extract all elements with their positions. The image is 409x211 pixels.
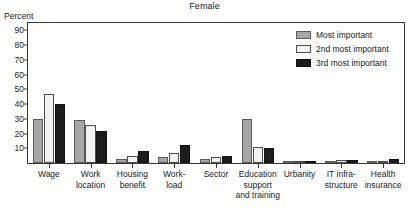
legend-item: 3rd most important [296, 56, 404, 69]
x-tick-mark [216, 164, 217, 168]
bar [336, 160, 347, 163]
bar [74, 120, 85, 163]
bar [264, 148, 275, 163]
y-tick-mark [24, 104, 28, 105]
x-tick-mark [341, 164, 342, 168]
bar [294, 161, 305, 163]
legend-item: 2nd most important [296, 42, 404, 55]
y-tick-mark [24, 89, 28, 90]
legend-label: Most important [316, 30, 372, 40]
legend-item: Most important [296, 28, 404, 41]
x-tick-mark [132, 164, 133, 168]
bar [85, 125, 96, 163]
x-tick-mark [258, 164, 259, 168]
x-tick-label-line: Health [355, 169, 409, 180]
x-tick-label-line: support [230, 180, 286, 191]
bar [116, 159, 127, 163]
x-tick-mark [49, 164, 50, 168]
bar [169, 153, 180, 163]
bar-group [33, 23, 66, 163]
y-axis-label: Percent [4, 11, 33, 21]
bar [325, 161, 336, 163]
bar-group [158, 23, 191, 163]
x-tick-label: Healthinsurance [355, 169, 409, 190]
bar [283, 161, 294, 163]
bar [96, 131, 107, 163]
x-tick-mark [383, 164, 384, 168]
legend-swatch-2nd-most-important [296, 45, 311, 53]
legend-swatch-most-important [296, 31, 311, 39]
y-tick-mark [24, 45, 28, 46]
bar [55, 104, 66, 163]
chart-title: Female [0, 1, 409, 11]
bar [305, 161, 316, 163]
y-tick-mark [24, 148, 28, 149]
bar [222, 156, 233, 163]
chart-legend: Most important 2nd most important 3rd mo… [296, 28, 404, 70]
bar [180, 145, 191, 163]
bar-group [74, 23, 107, 163]
bar [367, 161, 378, 163]
bar-group [200, 23, 233, 163]
bar [253, 147, 264, 163]
y-tick-mark [24, 30, 28, 31]
x-tick-label-line: and training [230, 190, 286, 201]
bar [33, 119, 44, 163]
y-tick-mark [24, 74, 28, 75]
x-tick-mark [91, 164, 92, 168]
bar [347, 160, 358, 163]
y-tick-mark [24, 133, 28, 134]
bar [389, 159, 400, 163]
bar [242, 119, 253, 163]
bar [200, 159, 211, 163]
bar-group [242, 23, 275, 163]
bar [138, 151, 149, 163]
bar [44, 94, 55, 163]
bar [378, 161, 389, 163]
y-tick-mark [24, 118, 28, 119]
y-tick-mark [24, 59, 28, 60]
legend-label: 3rd most important [316, 58, 387, 68]
x-tick-label-line: insurance [355, 180, 409, 191]
bar [211, 157, 222, 163]
legend-swatch-3rd-most-important [296, 59, 311, 67]
chart-container: Female Percent 102030405060708090 WageWo… [0, 0, 409, 211]
bar [158, 157, 169, 163]
x-tick-mark [174, 164, 175, 168]
legend-label: 2nd most important [316, 44, 389, 54]
bar-group [116, 23, 149, 163]
x-tick-label-line: load [146, 180, 202, 191]
x-tick-mark [300, 164, 301, 168]
bar [127, 156, 138, 163]
